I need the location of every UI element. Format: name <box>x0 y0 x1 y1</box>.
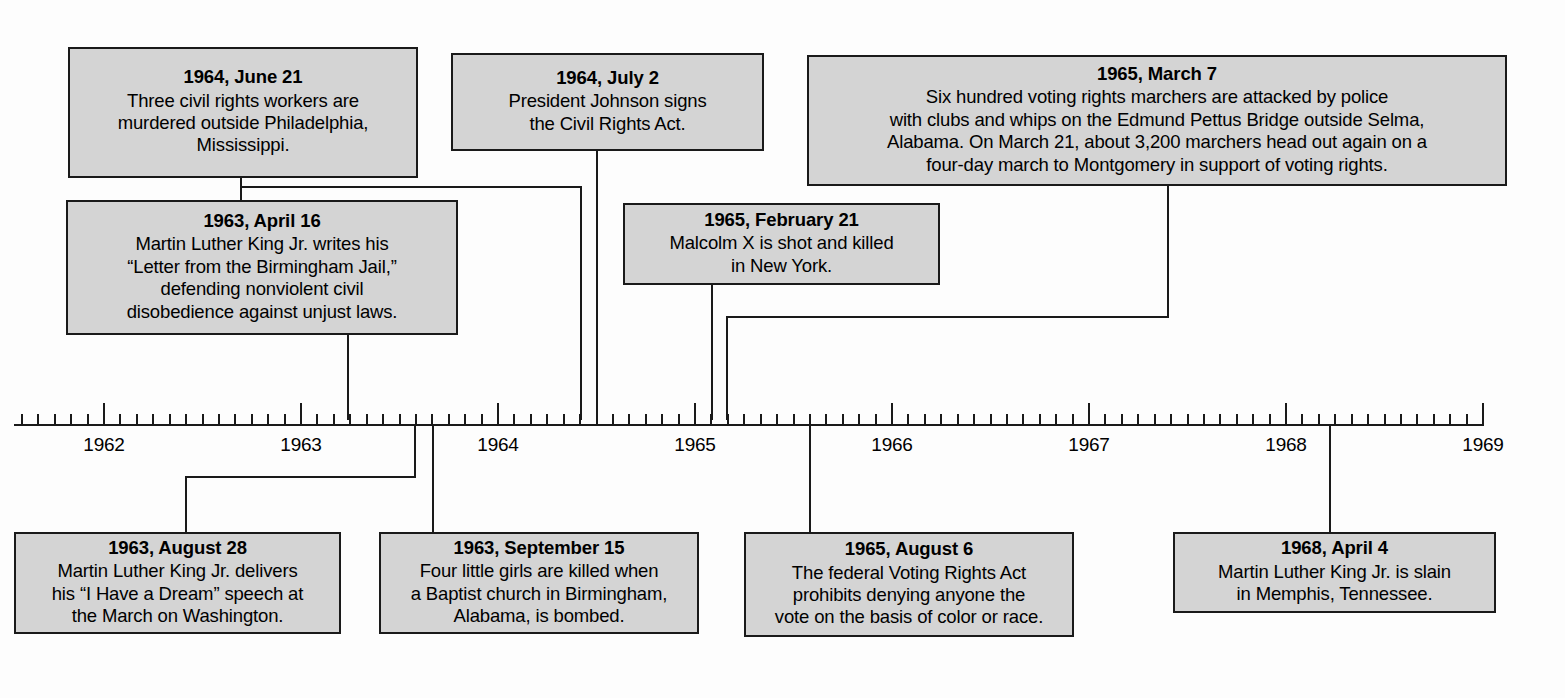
tick-month <box>185 414 187 425</box>
event-box-1965-february-21[interactable]: 1965, February 21 Malcolm X is shot and … <box>623 203 940 285</box>
event-text: The federal Voting Rights Act prohibits … <box>775 562 1043 629</box>
event-date: 1968, April 4 <box>1281 537 1388 559</box>
tick-month <box>579 414 581 425</box>
tick-month <box>267 414 269 425</box>
tick-month <box>1121 414 1123 425</box>
tick-year-1965 <box>694 403 696 425</box>
event-box-1965-march-7[interactable]: 1965, March 7 Six hundred voting rights … <box>807 55 1507 186</box>
event-date: 1965, August 6 <box>845 538 974 560</box>
event-date: 1963, September 15 <box>454 537 625 559</box>
event-date: 1963, August 28 <box>108 537 247 559</box>
tick-month <box>940 414 942 425</box>
tick-month <box>202 414 204 425</box>
connector-1965-february-21-drop <box>711 285 713 420</box>
tick-month <box>1187 414 1189 425</box>
tick-month <box>596 414 598 425</box>
tick-year-1968 <box>1285 403 1287 425</box>
tick-month <box>1170 414 1172 425</box>
tick-year-1966 <box>891 403 893 425</box>
event-box-1968-april-4[interactable]: 1968, April 4 Martin Luther King Jr. is … <box>1173 532 1496 613</box>
tick-month <box>1433 414 1435 425</box>
tick-month <box>1039 414 1041 425</box>
event-text: Martin Luther King Jr. is slain in Memph… <box>1218 561 1451 606</box>
connector-1964-july-2-drop <box>596 151 598 420</box>
event-date: 1964, June 21 <box>183 66 302 88</box>
tick-month <box>316 414 318 425</box>
connector-1964-june-21-stem <box>240 178 242 202</box>
timeline-diagram: 1964, June 21 Three civil rights workers… <box>0 0 1565 698</box>
event-text: Martin Luther King Jr. delivers his “I H… <box>52 560 304 627</box>
tick-month <box>842 414 844 425</box>
tick-month <box>431 414 433 425</box>
tick-month <box>727 414 729 425</box>
tick-year-1967 <box>1088 403 1090 425</box>
tick-month <box>1269 414 1271 425</box>
event-box-1963-august-28[interactable]: 1963, August 28 Martin Luther King Jr. d… <box>14 532 341 634</box>
event-box-1964-july-2[interactable]: 1964, July 2 President Johnson signs the… <box>451 53 764 151</box>
connector-1968-april-4-drop <box>1329 426 1331 534</box>
event-box-1965-august-6[interactable]: 1965, August 6 The federal Voting Rights… <box>744 532 1074 637</box>
connector-1963-august-28-drop <box>185 476 187 534</box>
event-date: 1963, April 16 <box>203 210 320 232</box>
tick-month <box>37 414 39 425</box>
tick-month <box>678 414 680 425</box>
tick-month <box>825 414 827 425</box>
tick-month <box>136 414 138 425</box>
tick-month <box>284 414 286 425</box>
tick-year-1969 <box>1482 403 1484 425</box>
tick-month <box>464 414 466 425</box>
tick-month <box>70 414 72 425</box>
tick-month <box>1367 414 1369 425</box>
tick-month <box>1104 414 1106 425</box>
tick-month <box>875 414 877 425</box>
connector-1965-march-7-drop <box>726 316 728 420</box>
tick-month <box>415 414 417 425</box>
connector-1963-august-28-run <box>185 476 416 478</box>
tick-month <box>1203 414 1205 425</box>
tick-month <box>661 414 663 425</box>
event-date: 1964, July 2 <box>556 67 659 89</box>
tick-month <box>907 414 909 425</box>
tick-month <box>1006 414 1008 425</box>
tick-month <box>366 414 368 425</box>
tick-month <box>776 414 778 425</box>
tick-month <box>612 414 614 425</box>
tick-month <box>858 414 860 425</box>
connector-1963-august-28-stem <box>414 426 416 478</box>
tick-month <box>1236 414 1238 425</box>
event-box-1964-june-21[interactable]: 1964, June 21 Three civil rights workers… <box>68 47 418 178</box>
event-box-1963-april-16[interactable]: 1963, April 16 Martin Luther King Jr. wr… <box>66 200 458 335</box>
tick-month <box>152 414 154 425</box>
tick-year-1964 <box>497 403 499 425</box>
year-label-1968: 1968 <box>1265 434 1306 456</box>
year-label-1965: 1965 <box>674 434 715 456</box>
tick-month <box>119 414 121 425</box>
tick-month <box>809 414 811 425</box>
tick-month <box>382 414 384 425</box>
tick-month <box>1466 414 1468 425</box>
event-box-1963-september-15[interactable]: 1963, September 15 Four little girls are… <box>379 532 699 634</box>
tick-month <box>251 414 253 425</box>
tick-month <box>87 414 89 425</box>
tick-month <box>448 414 450 425</box>
tick-month <box>1384 414 1386 425</box>
year-label-1962: 1962 <box>83 434 124 456</box>
event-date: 1965, March 7 <box>1097 63 1217 85</box>
tick-month <box>957 414 959 425</box>
tick-month <box>628 414 630 425</box>
tick-month <box>1400 414 1402 425</box>
tick-month <box>760 414 762 425</box>
tick-month <box>1334 414 1336 425</box>
tick-month <box>546 414 548 425</box>
year-label-1969: 1969 <box>1462 434 1503 456</box>
year-label-1966: 1966 <box>871 434 912 456</box>
tick-month <box>645 414 647 425</box>
event-text: Martin Luther King Jr. writes his “Lette… <box>127 233 398 323</box>
tick-month <box>234 414 236 425</box>
tick-year-1963 <box>300 403 302 425</box>
connector-1965-march-7-run <box>726 316 1169 318</box>
tick-month <box>973 414 975 425</box>
tick-month <box>1219 414 1221 425</box>
tick-month <box>1022 414 1024 425</box>
tick-month <box>399 414 401 425</box>
